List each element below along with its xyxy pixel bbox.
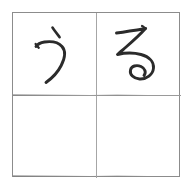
worksheet-page: う る (0, 0, 189, 187)
grid-cell-bottom-left[interactable] (13, 96, 96, 178)
grid-cell-top-right[interactable]: る (97, 13, 180, 95)
cell-character-value (97, 96, 98, 97)
grid-cell-bottom-right[interactable] (97, 96, 180, 178)
handwriting-practice-grid: う る (12, 12, 180, 177)
handwritten-character-u (13, 13, 96, 95)
grid-cell-top-left[interactable]: う (13, 13, 96, 95)
cell-character-value (13, 96, 14, 97)
handwritten-character-ru (97, 13, 180, 95)
